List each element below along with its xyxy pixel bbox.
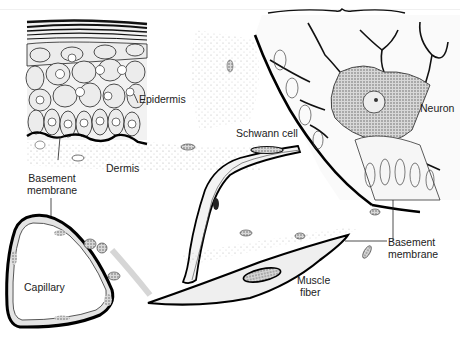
- label-basement-membrane-right: Basement membrane: [388, 236, 438, 260]
- top-brace: [268, 9, 405, 13]
- label-basement-membrane-left: Basement membrane: [25, 172, 79, 196]
- label-schwann-cell: Schwann cell: [236, 127, 298, 139]
- label-basement-membrane-right-line1: Basement: [388, 236, 438, 248]
- label-muscle-fiber-line1: Muscle: [297, 274, 330, 286]
- label-basement-membrane-left-line1: Basement: [25, 172, 79, 184]
- label-capillary: Capillary: [24, 281, 65, 293]
- diagram-illustration: [0, 0, 460, 341]
- epidermis-tissue: [26, 20, 147, 144]
- capillary: [7, 215, 150, 327]
- diagram-canvas: Epidermis Dermis Basement membrane Capil…: [0, 0, 460, 341]
- muscle-fiber: [148, 209, 380, 305]
- label-dermis: Dermis: [106, 162, 139, 174]
- label-epidermis: Epidermis: [139, 93, 186, 105]
- label-neuron: Neuron: [420, 102, 454, 114]
- label-muscle-fiber-line2: fiber: [297, 286, 330, 298]
- label-basement-membrane-right-line2: membrane: [388, 248, 438, 260]
- label-muscle-fiber: Muscle fiber: [297, 274, 330, 298]
- label-basement-membrane-left-line2: membrane: [25, 184, 79, 196]
